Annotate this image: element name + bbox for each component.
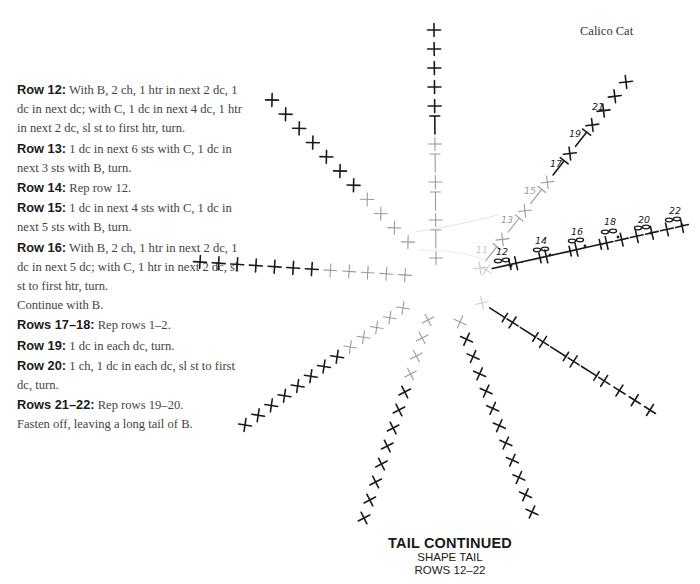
row-number-label: 18 [604,216,616,227]
stitch-symbol-htr-r-icon [551,347,569,361]
stitch-symbol-htr-b-icon [553,246,572,256]
row-number-label: 11 [476,244,488,255]
row-number-label: 22 [669,205,681,216]
stitch-symbol-plus-icon [599,375,610,386]
stitch-symbol-plus-icon [429,214,442,227]
guide-arc [415,215,498,232]
stitch-symbol-x-icon [306,136,319,149]
stitch-symbol-plus-icon [380,267,393,280]
stitch-symbol-x-icon [474,368,486,380]
stitch-symbol-plus-icon [194,256,207,269]
stitch-symbol-x-icon [608,90,621,103]
stitch-symbol-plus-icon [428,43,441,56]
spoke-down-left [358,314,434,524]
chart-caption: TAIL CONTINUED SHAPE TAIL ROWS 12–22 [340,535,560,577]
row-number-label: 14 [535,235,547,246]
stitch-symbol-plus-icon [645,405,656,416]
row-number-label: 15 [524,185,536,196]
stitch-symbol-x-icon [563,147,576,160]
crochet-chart-diagram: 111213141516171819202122 [0,0,700,584]
stitch-symbol-htr-r-icon [490,308,508,322]
stitch-symbol-x-icon [541,176,554,189]
row-number-label: 19 [569,128,581,139]
stitch-symbol-plus-icon [430,252,443,265]
stitch-symbol-x-icon [304,370,317,383]
stitch-symbol-x-icon [393,404,405,416]
stitch-symbol-plus-icon [429,176,442,189]
stitch-symbol-htr-b-icon [583,239,602,249]
stitch-symbol-x-icon [347,179,360,192]
spoke-lower-left [239,302,410,432]
stitch-symbol-x-icon [344,341,357,354]
stitch-symbol-plus-icon [268,260,281,273]
stitch-symbol-plus-icon [305,263,318,276]
stitch-symbol-x-icon [239,419,252,432]
stitch-symbol-x-icon [518,204,531,217]
stitch-symbol-htr-r-icon [581,366,599,380]
stitch-symbol-x-icon [487,402,499,414]
stitch-symbol-x-icon [422,314,434,326]
spoke-upper-left [266,94,415,249]
stitch-symbol-plus-icon [661,223,674,236]
stitch-symbol-plus-icon [249,259,262,272]
stitch-symbol-htr-b-icon [522,253,541,263]
stitch-symbol-x-icon [370,321,383,334]
stitch-symbol-plus-icon [428,81,441,94]
stitch-symbol-x-icon [374,207,387,220]
stitch-symbol-x-icon [526,506,538,518]
stitch-symbol-plus-icon [615,233,628,246]
stitch-symbol-x-icon [278,389,291,402]
stitch-symbol-htr-icon [430,154,440,172]
stitch-symbol-x-icon [364,494,376,506]
stitch-symbol-plus-icon [212,257,225,270]
stitch-symbol-plus-icon [361,266,374,279]
stitch-symbol-x-icon [496,233,509,246]
row-number-label: 12 [496,246,508,257]
chain-stitch-icon [601,229,619,238]
stitch-symbol-plus-icon [570,243,583,256]
stitch-symbol-plus-icon [568,356,579,367]
row-number-label: 13 [501,214,513,225]
stitch-symbol-x-icon [381,440,393,452]
spoke-down-right [454,316,538,518]
stitch-symbol-plus-icon [540,250,553,263]
stitch-symbol-x-icon [454,316,466,328]
stitch-symbol-x-icon [334,165,347,178]
stitch-symbol-x-icon [361,193,374,206]
stitch-symbol-htr-icon [431,230,441,248]
spoke-right-lower [476,297,656,416]
stitch-symbol-x-icon [357,331,370,344]
stitch-symbol-plus-icon [614,385,625,396]
stitch-symbol-x-icon [493,420,505,432]
stitch-symbol-x-icon [481,265,492,276]
stitch-symbol-x-icon [461,333,473,345]
stitch-symbol-x-icon [320,150,333,163]
stitch-symbol-x-icon [586,118,599,131]
stitch-symbol-htr-icon [430,192,440,210]
stitch-symbol-x-icon [467,351,479,363]
stitch-symbol-plus-icon [538,336,549,347]
stitch-symbol-x-icon [358,512,370,524]
stitch-symbol-plus-icon [428,100,441,113]
stitch-symbol-x-icon [291,380,304,393]
stitch-symbol-x-icon [480,385,492,397]
caption-rows: ROWS 12–22 [340,564,560,577]
stitch-symbol-plus-icon [629,395,640,406]
stitch-symbol-x-icon [293,122,306,135]
stitch-symbol-x-icon [266,94,279,107]
stitch-symbol-plus-icon [231,258,244,271]
stitch-symbol-x-icon [416,332,428,344]
stitch-symbol-x-icon [476,297,489,310]
stitch-symbol-plus-icon [630,230,643,243]
stitch-symbol-plus-icon [429,138,442,151]
stitch-symbol-x-icon [405,368,417,380]
row-number-label: 16 [571,226,583,237]
stitch-symbol-x-icon [513,472,525,484]
stitch-symbol-x-icon [411,350,423,362]
caption-subtitle: SHAPE TAIL [340,551,560,564]
stitch-symbol-x-icon [331,350,344,363]
stitch-symbol-plus-icon [510,257,523,270]
stitch-symbol-htr-icon [430,116,440,134]
stitch-symbol-x-icon [376,458,388,470]
stitch-symbol-x-icon [399,386,411,398]
